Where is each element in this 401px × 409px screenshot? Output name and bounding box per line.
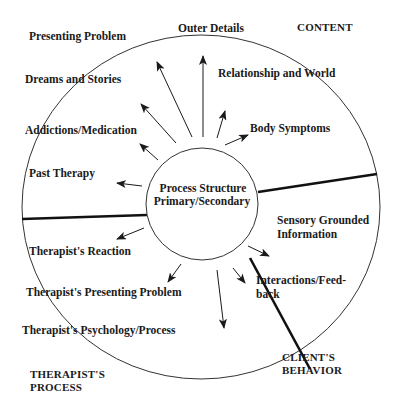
label-outer-details: Outer Details [178, 22, 244, 34]
arrow-dreams [157, 62, 192, 137]
label-therapists-reaction: Therapist's Reaction [29, 245, 132, 258]
section-therapists-process-1: THERAPIST'S [30, 368, 105, 380]
arrow-past-therapy [117, 183, 142, 186]
label-body-symptoms: Body Symptoms [250, 122, 331, 135]
arrow-relationship [217, 111, 225, 138]
divider-left [22, 215, 147, 219]
arrow-therapists-reaction [117, 228, 144, 239]
section-clients-behavior-2: BEHAVIOR [282, 364, 343, 376]
divider-right [258, 174, 377, 192]
label-therapists-presenting-problem: Therapist's Presenting Problem [26, 286, 182, 299]
arrow-body-symptoms [225, 135, 248, 145]
label-dreams-stories: Dreams and Stories [25, 73, 122, 85]
process-structure-diagram: Process Structure Primary/Secondary CONT… [0, 0, 401, 409]
label-presenting-problem: Presenting Problem [29, 30, 126, 43]
label-past-therapy: Past Therapy [29, 167, 95, 180]
center-label-line1: Process Structure [160, 182, 247, 194]
arrow-therapists-presenting [168, 264, 181, 282]
label-addictions-medication: Addictions/Medication [25, 124, 137, 136]
center-label-line2: Primary/Secondary [154, 195, 251, 208]
label-sensory-2: Information [277, 228, 338, 240]
label-interactions-1: Interactions/Feed- [256, 274, 346, 286]
arrow-addictions [141, 104, 176, 143]
section-clients-behavior-1: CLIENT'S [282, 351, 335, 363]
label-therapists-psychology: Therapist's Psychology/Process [22, 324, 176, 337]
section-content: CONTENT [297, 21, 353, 33]
arrow-interactions [233, 268, 245, 283]
arrow-therapists-psychology [217, 270, 224, 328]
label-relationship-world: Relationship and World [218, 67, 336, 80]
section-therapists-process-2: PROCESS [30, 381, 82, 393]
arrow-addictions-small [140, 144, 158, 160]
label-sensory-1: Sensory Grounded [277, 214, 370, 227]
arrow-sensory [248, 246, 269, 256]
label-interactions-2: back [256, 288, 280, 300]
